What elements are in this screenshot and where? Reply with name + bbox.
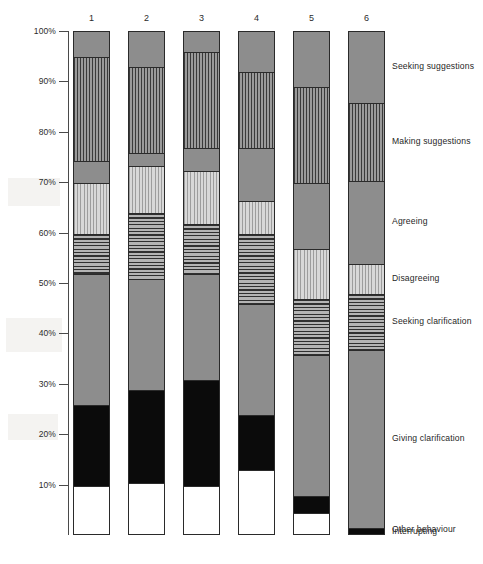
legend-label-agreeing: Agreeing (392, 216, 428, 226)
y-axis-tick (59, 81, 68, 82)
bar-segment-disagreeing[interactable] (74, 183, 109, 233)
bar-segment-agreeing[interactable] (239, 148, 274, 201)
y-axis-tick (59, 31, 68, 32)
bar-segment-interrupting[interactable] (129, 390, 164, 483)
bar-segment-seeking-clarification[interactable] (239, 234, 274, 305)
bar-segment-seeking-clarification[interactable] (294, 299, 329, 354)
bar-segment-interrupting[interactable] (184, 380, 219, 486)
bar-segment-making-suggestions[interactable] (239, 72, 274, 148)
bar-segment-other-behaviour[interactable] (184, 486, 219, 535)
bar-segment-disagreeing[interactable] (349, 264, 384, 294)
bar-segment-agreeing[interactable] (349, 181, 384, 264)
bar-segment-seeking-suggestions[interactable] (239, 32, 274, 72)
bar-column-5[interactable] (293, 31, 330, 535)
y-axis-tick-label: 80% (16, 127, 56, 137)
bar-column-3[interactable] (183, 31, 220, 535)
category-label-3: 3 (183, 13, 220, 23)
bar-segment-making-suggestions[interactable] (349, 103, 384, 181)
bar-segment-disagreeing[interactable] (239, 201, 274, 234)
y-axis-tick-label: 30% (16, 379, 56, 389)
legend-label-giving-clarification: Giving clarification (392, 433, 465, 443)
bar-segment-interrupting[interactable] (294, 496, 329, 514)
y-axis-tick (59, 333, 68, 334)
y-axis-tick-label: 50% (16, 278, 56, 288)
y-axis-tick-label: 90% (16, 76, 56, 86)
bar-segment-making-suggestions[interactable] (74, 57, 109, 160)
bar-segment-giving-clarification[interactable] (294, 355, 329, 496)
bar-segment-agreeing[interactable] (294, 183, 329, 249)
category-label-2: 2 (128, 13, 165, 23)
bar-segment-disagreeing[interactable] (294, 249, 329, 299)
bar-column-4[interactable] (238, 31, 275, 535)
y-axis-tick (59, 132, 68, 133)
bar-segment-making-suggestions[interactable] (184, 52, 219, 148)
bar-segment-seeking-clarification[interactable] (74, 234, 109, 274)
bar-segment-other-behaviour[interactable] (294, 513, 329, 535)
bar-column-6[interactable] (348, 31, 385, 535)
bar-segment-making-suggestions[interactable] (294, 87, 329, 183)
bar-segment-giving-clarification[interactable] (74, 274, 109, 405)
y-axis-tick (59, 384, 68, 385)
y-axis-tick-label: 70% (16, 177, 56, 187)
bar-segment-agreeing[interactable] (74, 161, 109, 184)
bar-segment-seeking-suggestions[interactable] (129, 32, 164, 67)
bar-segment-other-behaviour[interactable] (129, 483, 164, 535)
bar-segment-seeking-suggestions[interactable] (294, 32, 329, 87)
y-axis-tick (59, 434, 68, 435)
bar-segment-giving-clarification[interactable] (239, 304, 274, 415)
bar-column-2[interactable] (128, 31, 165, 535)
y-axis-tick (59, 233, 68, 234)
bar-segment-disagreeing[interactable] (129, 166, 164, 214)
y-axis-line (68, 31, 69, 535)
y-axis-tick-label: 100% (16, 26, 56, 36)
bar-segment-interrupting[interactable] (74, 405, 109, 486)
bar-segment-seeking-clarification[interactable] (129, 213, 164, 279)
stacked-bar-chart: 100%90%80%70%60%50%40%30%20%10% 123456 S… (0, 0, 483, 564)
bar-segment-giving-clarification[interactable] (129, 279, 164, 390)
bar-segment-interrupting[interactable] (239, 415, 274, 470)
bar-segment-other-behaviour[interactable] (239, 470, 274, 535)
y-axis-tick (59, 485, 68, 486)
bar-segment-seeking-suggestions[interactable] (74, 32, 109, 57)
y-axis-tick-label: 20% (16, 429, 56, 439)
y-axis-tick-label: 60% (16, 228, 56, 238)
bar-segment-disagreeing[interactable] (184, 171, 219, 224)
category-label-1: 1 (73, 13, 110, 23)
legend-label-other-behaviour: Other behaviour (392, 524, 456, 534)
bar-segment-agreeing[interactable] (129, 153, 164, 166)
legend-label-seeking-suggestions: Seeking suggestions (392, 61, 474, 71)
legend-label-disagreeing: Disagreeing (392, 273, 440, 283)
y-axis-tick (59, 182, 68, 183)
y-axis-tick-label: 10% (16, 480, 56, 490)
bar-segment-seeking-clarification[interactable] (349, 294, 384, 349)
category-label-5: 5 (293, 13, 330, 23)
bar-column-1[interactable] (73, 31, 110, 535)
bar-segment-making-suggestions[interactable] (129, 67, 164, 153)
bar-segment-agreeing[interactable] (184, 148, 219, 171)
bar-segment-giving-clarification[interactable] (349, 350, 384, 529)
bar-segment-seeking-suggestions[interactable] (349, 32, 384, 103)
legend-label-making-suggestions: Making suggestions (392, 136, 471, 146)
bar-segment-seeking-clarification[interactable] (184, 224, 219, 274)
bar-segment-interrupting[interactable] (349, 528, 384, 535)
bar-segment-seeking-suggestions[interactable] (184, 32, 219, 52)
bar-segment-giving-clarification[interactable] (184, 274, 219, 380)
plot-area: 100%90%80%70%60%50%40%30%20%10% 123456 S… (0, 0, 483, 564)
category-label-4: 4 (238, 13, 275, 23)
category-label-6: 6 (348, 13, 385, 23)
bar-segment-other-behaviour[interactable] (74, 486, 109, 535)
y-axis-tick (59, 283, 68, 284)
legend-label-seeking-clarification: Seeking clarification (392, 316, 472, 326)
y-axis-tick-label: 40% (16, 328, 56, 338)
